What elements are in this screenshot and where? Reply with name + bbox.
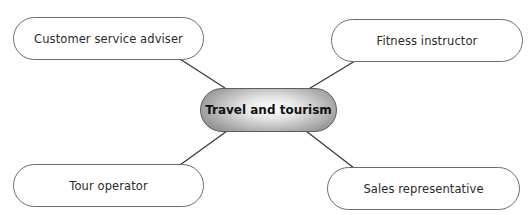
node-sales-representative: Sales representative [327,167,520,210]
node-label: Tour operator [69,179,148,193]
connector-top-right [307,61,355,90]
node-customer-service-adviser: Customer service adviser [13,17,204,60]
connector-top-left [180,59,228,90]
node-label: Sales representative [363,182,483,196]
central-topic-node: Travel and tourism [200,88,337,132]
connector-bottom-right [306,131,354,168]
node-label: Customer service adviser [34,32,183,46]
central-topic-label: Travel and tourism [205,103,332,117]
node-fitness-instructor: Fitness instructor [331,19,523,62]
node-label: Fitness instructor [377,34,478,48]
connector-bottom-left [180,131,227,165]
node-tour-operator: Tour operator [13,164,204,207]
